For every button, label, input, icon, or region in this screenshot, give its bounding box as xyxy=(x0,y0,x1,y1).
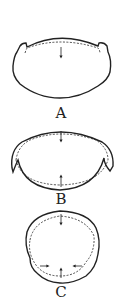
figure-a-shape xyxy=(13,38,111,98)
figure-c-label: C xyxy=(0,285,122,300)
figure-c-shape xyxy=(26,211,99,283)
figure-b-label: B xyxy=(0,192,122,207)
figure-b-shape xyxy=(12,131,113,190)
figure-a-label: A xyxy=(0,106,122,121)
diagram-canvas xyxy=(0,0,122,307)
